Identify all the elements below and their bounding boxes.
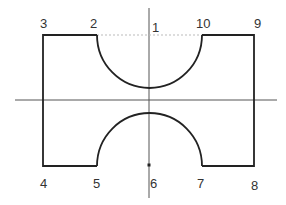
point-label-9: 9 (254, 16, 261, 31)
point-label-1: 1 (152, 20, 159, 35)
point-label-7: 7 (197, 176, 204, 191)
point-label-2: 2 (90, 16, 97, 31)
diagram-canvas: 3 2 1 10 9 4 5 6 7 8 (0, 0, 286, 205)
point-label-6: 6 (150, 176, 157, 191)
point-label-10: 10 (196, 16, 210, 31)
point-label-8: 8 (251, 178, 258, 193)
point-label-3: 3 (40, 16, 47, 31)
point-label-5: 5 (93, 176, 100, 191)
point-label-4: 4 (40, 176, 47, 191)
marker-dot (148, 164, 151, 167)
